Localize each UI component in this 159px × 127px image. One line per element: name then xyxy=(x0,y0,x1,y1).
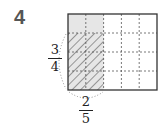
numerator: 3 xyxy=(51,42,59,57)
hatched-region xyxy=(68,33,104,90)
numerator: 2 xyxy=(82,94,90,109)
fraction-three-quarters: 3 4 xyxy=(48,43,62,74)
denominator: 4 xyxy=(51,59,59,74)
denominator: 5 xyxy=(82,111,90,126)
fraction-two-fifths: 2 5 xyxy=(79,95,93,126)
